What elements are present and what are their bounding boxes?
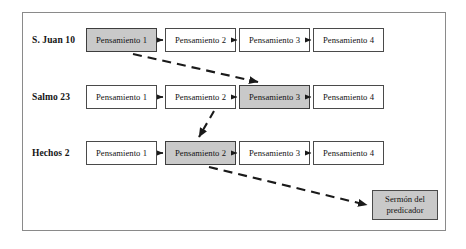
node-r3-c2[interactable]: Pensamiento 2 — [165, 141, 236, 165]
sermon-line-2: predicador — [386, 205, 423, 216]
node-r3-c1[interactable]: Pensamiento 1 — [86, 141, 157, 165]
row-label-1: S. Juan 10 — [32, 34, 90, 46]
node-r1-c4[interactable]: Pensamiento 4 — [313, 28, 384, 52]
node-sermon[interactable]: Sermón del predicador — [372, 190, 438, 220]
node-r3-c3[interactable]: Pensamiento 3 — [239, 141, 310, 165]
node-r2-c3[interactable]: Pensamiento 3 — [239, 85, 310, 109]
row-label-2: Salmo 23 — [32, 91, 90, 103]
node-r2-c4[interactable]: Pensamiento 4 — [313, 85, 384, 109]
node-r1-c2[interactable]: Pensamiento 2 — [165, 28, 236, 52]
node-r1-c3[interactable]: Pensamiento 3 — [239, 28, 310, 52]
node-r1-c1[interactable]: Pensamiento 1 — [86, 28, 157, 52]
row-label-3: Hechos 2 — [32, 147, 90, 159]
sermon-line-1: Sermón del — [385, 194, 425, 205]
diagram-canvas: S. Juan 10 Salmo 23 Hechos 2 Pensamiento… — [0, 0, 466, 249]
node-r3-c4[interactable]: Pensamiento 4 — [313, 141, 384, 165]
node-r2-c2[interactable]: Pensamiento 2 — [165, 85, 236, 109]
node-r2-c1[interactable]: Pensamiento 1 — [86, 85, 157, 109]
